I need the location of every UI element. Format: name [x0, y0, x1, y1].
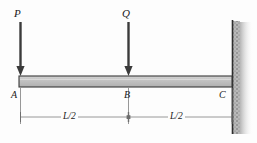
load-label-q: Q: [122, 8, 130, 19]
node-label-b: B: [124, 90, 130, 100]
dimension-label-right: L/2: [168, 112, 185, 122]
load-label-p: P: [14, 8, 21, 19]
fixed-support-hatching: [233, 21, 240, 134]
wall-shadow: [239, 22, 253, 134]
load-arrow-p-head: [16, 66, 24, 76]
node-label-c: C: [219, 90, 226, 100]
beam-body: [19, 76, 232, 87]
load-arrow-q-head: [124, 66, 132, 76]
dimension-label-left: L/2: [61, 112, 78, 122]
dimension-midpoint-marker: [127, 115, 131, 119]
diagram-canvas: [0, 0, 257, 143]
beam-diagram-figure: P Q A B C L/2 L/2: [0, 0, 257, 143]
node-label-a: A: [11, 90, 17, 100]
